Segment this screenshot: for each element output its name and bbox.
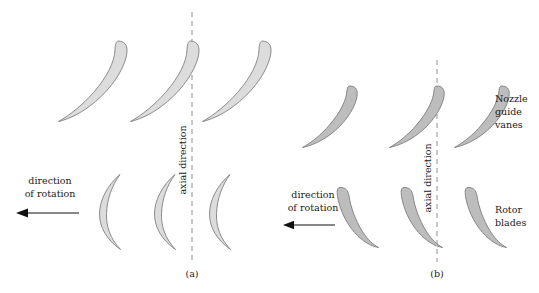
ngv-label-line1: Nozzle (495, 93, 528, 104)
direction-of-rotation-label-line2: of rotation (25, 188, 76, 199)
axial-direction-label-b: axial direction (422, 143, 433, 212)
nozzle-guide-vanes-side-label: Nozzle guide vanes (494, 93, 528, 130)
direction-of-rotation-label-line2: of rotation (288, 202, 339, 213)
rotor-blade (337, 187, 378, 247)
axial-direction-label-a: axial direction (177, 125, 188, 194)
panel-b: direction of rotation axial direction No… (283, 60, 528, 279)
direction-of-rotation-arrow-a (16, 209, 79, 218)
ngv-label-line3: vanes (494, 119, 523, 130)
ngv-label-line2: guide (495, 106, 522, 117)
nozzle-guide-vane (303, 86, 358, 148)
turbine-blade-diagram: direction of rotation axial direction (a… (0, 0, 539, 293)
rotor-blade (155, 175, 176, 250)
nozzle-guide-vane (203, 41, 272, 122)
ngv-row-a (59, 41, 272, 122)
ngv-row-b (303, 86, 510, 148)
direction-of-rotation-arrow-b (283, 221, 335, 229)
figure-container: direction of rotation axial direction (a… (0, 0, 539, 293)
rotor-blade (210, 175, 231, 250)
panel-label-b: (b) (430, 268, 444, 279)
rotor-label-line2: blades (495, 217, 526, 228)
direction-of-rotation-label-line1: direction (291, 189, 334, 200)
rotor-label-line1: Rotor (495, 204, 522, 215)
rotor-blades-side-label: Rotor blades (495, 204, 526, 228)
rotor-blade (100, 175, 121, 250)
nozzle-guide-vane (390, 86, 445, 148)
nozzle-guide-vane (59, 41, 128, 122)
panel-a: direction of rotation axial direction (a… (16, 12, 271, 279)
direction-of-rotation-label-line1: direction (28, 175, 71, 186)
nozzle-guide-vane (131, 41, 200, 122)
rotor-row-a (100, 175, 231, 250)
panel-label-a: (a) (185, 268, 198, 279)
